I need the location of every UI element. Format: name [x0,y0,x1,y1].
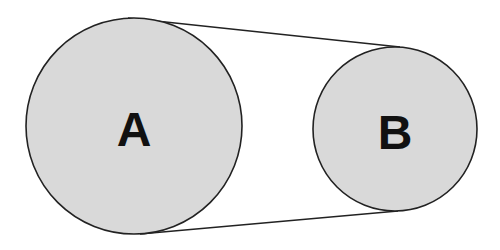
belt-pulley-diagram: A B [0,0,500,250]
pulley-b-label: B [378,106,413,159]
pulley-a: A [26,18,242,234]
pulley-a-label: A [117,103,152,156]
pulley-b: B [313,47,477,211]
